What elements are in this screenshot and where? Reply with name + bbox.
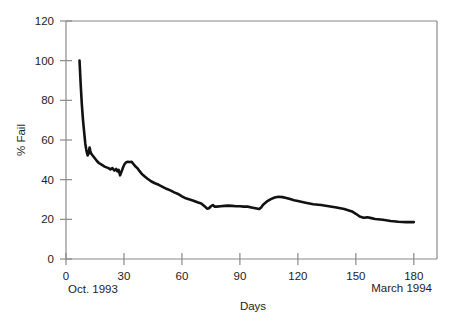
x-tick-label: 150: [346, 270, 365, 282]
y-tick-label: 60: [41, 134, 54, 146]
y-tick-label: 20: [41, 213, 54, 225]
annotation-end-period: March 1994: [371, 282, 432, 294]
x-tick-label: 90: [234, 270, 247, 282]
y-tick-label: 120: [35, 15, 54, 27]
y-tick-label: 40: [41, 174, 54, 186]
line-chart: 020406080100120 0306090120150180 % Fail …: [0, 0, 453, 326]
x-tick-label: 180: [404, 270, 423, 282]
x-tick-label: 0: [63, 270, 69, 282]
x-tick-label: 30: [118, 270, 131, 282]
y-tick-label: 100: [35, 55, 54, 67]
series-line-pct-fail: [80, 61, 414, 222]
data-series-group: [80, 61, 414, 222]
x-axis: 0306090120150180: [63, 253, 437, 282]
y-tick-label: 0: [48, 253, 54, 265]
x-tick-label: 60: [176, 270, 189, 282]
y-axis-title: % Fail: [15, 124, 27, 156]
y-axis: 020406080100120: [35, 15, 72, 265]
x-tick-label: 120: [288, 270, 307, 282]
y-tick-label: 80: [41, 94, 54, 106]
annotation-start-period: Oct. 1993: [68, 283, 118, 295]
chart-figure: 020406080100120 0306090120150180 % Fail …: [0, 0, 453, 326]
plot-frame: [66, 21, 437, 259]
x-axis-title: Days: [240, 300, 266, 312]
